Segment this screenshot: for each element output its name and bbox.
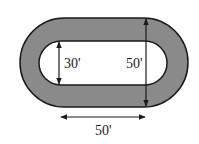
track-diagram: 30' 50' 50' xyxy=(0,0,199,144)
inner-infield-boundary xyxy=(39,41,167,85)
straight-length-label: 50' xyxy=(95,123,112,138)
inner-width-label: 30' xyxy=(64,56,81,71)
outer-width-label: 50' xyxy=(126,56,143,71)
